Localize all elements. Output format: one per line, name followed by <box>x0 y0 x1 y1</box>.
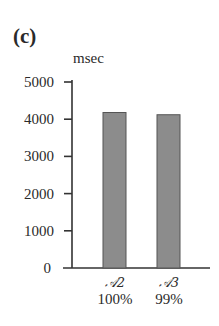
y-tick-label: 4000 <box>6 111 54 127</box>
bars <box>103 113 180 268</box>
x-label-a2: 𝒜2 100% <box>85 274 145 308</box>
y-tick-label: 0 <box>6 260 51 276</box>
y-tick-label: 5000 <box>6 74 54 90</box>
bar <box>157 115 180 268</box>
y-tick-label: 1000 <box>6 223 54 239</box>
y-tick-label: 2000 <box>6 186 54 202</box>
y-ticks <box>64 82 72 231</box>
y-tick-label: 3000 <box>6 148 54 164</box>
x-label-symbol: 𝒜2 <box>105 275 125 290</box>
x-label-pct: 99% <box>139 291 199 308</box>
bar <box>103 113 126 268</box>
x-label-pct: 100% <box>85 291 145 308</box>
x-label-a3: 𝒜3 99% <box>139 274 199 308</box>
x-label-symbol: 𝒜3 <box>159 275 179 290</box>
